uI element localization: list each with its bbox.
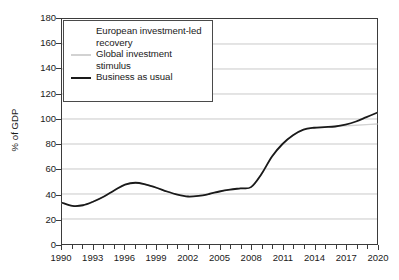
legend-line-icon-european (70, 26, 92, 38)
y-axis-tick-label: 180 (22, 13, 56, 23)
legend-label: European investment-led recovery (96, 25, 208, 48)
x-axis-tick (135, 245, 136, 249)
x-axis-tick (367, 245, 368, 249)
x-axis-tick (378, 245, 379, 250)
x-axis-tick (188, 245, 189, 250)
legend-item-european-investment-led-recovery[interactable]: European investment-led recovery (64, 25, 212, 48)
y-axis-tick-label: 120 (22, 89, 56, 99)
legend-item-business-as-usual[interactable]: Business as usual (64, 71, 212, 84)
x-axis-tick-label: 2020 (358, 252, 398, 264)
x-axis-tick (251, 245, 252, 250)
x-axis-tick (177, 245, 178, 249)
y-axis-tick-label: 40 (22, 190, 56, 200)
series-line (62, 113, 377, 206)
x-axis-tick (114, 245, 115, 249)
y-axis-tick-label: 140 (22, 63, 56, 73)
x-axis-tick (241, 245, 242, 249)
x-axis-tick (304, 245, 305, 249)
legend-item-global-investment-stimulus[interactable]: Global investment stimulus (64, 48, 212, 71)
y-axis-tick-label: 100 (22, 114, 56, 124)
legend-label: Global investment stimulus (96, 48, 208, 71)
legend-line-icon-global (70, 49, 92, 61)
x-axis-tick (167, 245, 168, 249)
y-axis-tick-label: 80 (22, 139, 56, 149)
chart-legend: European investment-led recovery Global … (63, 20, 213, 102)
x-axis-tick (124, 245, 125, 250)
x-axis-tick (198, 245, 199, 249)
x-axis-tick (325, 245, 326, 249)
x-axis-tick (315, 245, 316, 250)
x-axis-tick (220, 245, 221, 250)
x-axis-tick (336, 245, 337, 249)
y-axis-tick-label: 160 (22, 38, 56, 48)
x-axis-tick (156, 245, 157, 250)
x-axis-tick (146, 245, 147, 249)
legend-line-icon-business (70, 72, 92, 84)
x-axis-tick (357, 245, 358, 249)
y-axis-tick-label: 0 (22, 240, 56, 250)
x-axis-tick (293, 245, 294, 249)
x-axis-tick (61, 245, 62, 250)
x-axis-tick (93, 245, 94, 250)
x-axis-tick (262, 245, 263, 249)
x-axis-tick (346, 245, 347, 250)
x-axis-tick (103, 245, 104, 249)
y-axis-tick-label: 20 (22, 215, 56, 225)
legend-label: Business as usual (96, 71, 172, 83)
x-axis-tick (272, 245, 273, 249)
x-axis-tick (230, 245, 231, 249)
x-axis-tick (82, 245, 83, 249)
x-axis-tick (209, 245, 210, 249)
x-axis-tick (72, 245, 73, 249)
chart-container: % of GDP 020406080100120140160180 199019… (0, 0, 399, 280)
x-axis-tick (283, 245, 284, 250)
y-axis-label: % of GDP (8, 15, 22, 245)
y-axis-tick-label: 60 (22, 164, 56, 174)
